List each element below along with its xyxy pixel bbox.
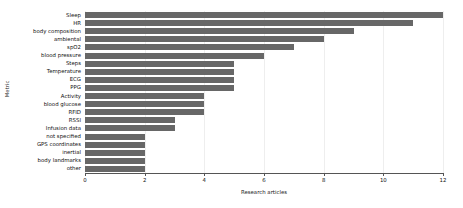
x-axis-tick-mark (324, 173, 325, 176)
y-axis-title: Metric (0, 0, 14, 178)
bar (85, 53, 264, 59)
bar (85, 44, 294, 50)
gridline (443, 11, 444, 173)
bar (85, 158, 145, 164)
bar (85, 101, 204, 107)
bar (85, 61, 234, 67)
bar-chart: Metric SleepHRbody compositionambientals… (0, 0, 463, 208)
gridline (264, 11, 265, 173)
x-axis-tick-mark (204, 173, 205, 176)
bar (85, 142, 145, 148)
bar (85, 20, 413, 26)
x-axis-tick-label: 2 (143, 177, 146, 183)
bar (85, 134, 145, 140)
bar (85, 85, 234, 91)
x-axis-tick-mark (443, 173, 444, 176)
bar (85, 125, 175, 131)
x-axis-tick-label: 0 (83, 177, 86, 183)
x-axis-tick-label: 8 (322, 177, 325, 183)
y-axis-title-text: Metric (4, 81, 10, 98)
x-axis-title: Research articles (85, 189, 443, 195)
x-axis-tick-label: 6 (262, 177, 265, 183)
x-axis-tick-mark (85, 173, 86, 176)
y-axis-tick-label: other (67, 164, 81, 173)
bar (85, 77, 234, 83)
gridline (383, 11, 384, 173)
bar (85, 117, 175, 123)
x-axis-tick-label: 4 (203, 177, 206, 183)
bar (85, 150, 145, 156)
bar (85, 69, 234, 75)
bar (85, 36, 324, 42)
gridline (204, 11, 205, 173)
gridline (145, 11, 146, 173)
bar (85, 166, 145, 172)
x-axis-tick-mark (145, 173, 146, 176)
x-axis-tick-mark (264, 173, 265, 176)
bar (85, 12, 443, 18)
bar (85, 109, 204, 115)
x-axis-tick-label: 10 (380, 177, 387, 183)
plot-area (85, 11, 443, 173)
gridline (324, 11, 325, 173)
x-axis-tick-label: 12 (440, 177, 447, 183)
bar (85, 28, 354, 34)
x-axis-tick-mark (383, 173, 384, 176)
y-axis-tick-labels: SleepHRbody compositionambientalspO2bloo… (14, 11, 83, 173)
bar (85, 93, 204, 99)
gridline (85, 11, 86, 173)
